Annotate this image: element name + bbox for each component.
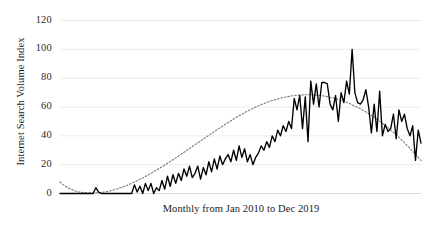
- gridlines: [60, 21, 421, 194]
- chart-container: Internet Search Volume Index 120 100 80 …: [0, 0, 430, 227]
- x-axis-title: Monthly from Jan 2010 to Dec 2019: [60, 203, 422, 214]
- data-line-series: [60, 49, 421, 193]
- plot-area: [0, 0, 430, 227]
- trend-line-series: [60, 95, 421, 193]
